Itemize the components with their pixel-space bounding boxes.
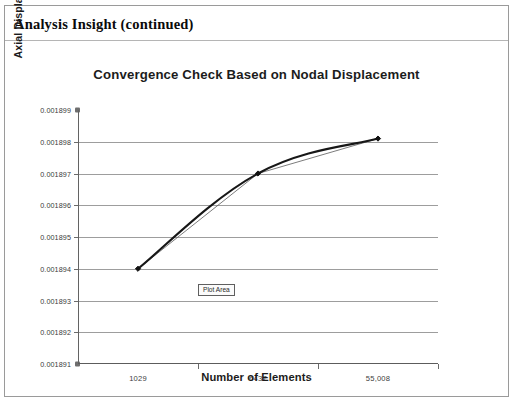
x-axis-tick xyxy=(438,364,439,369)
y-axis-tick-label: 0.001897 xyxy=(40,169,71,178)
y-axis-tick-label: 0.001894 xyxy=(40,264,71,273)
page-title: Analysis Insight (continued) xyxy=(14,16,194,33)
y-axis-tick-label: 0.001891 xyxy=(40,360,71,369)
y-axis-tick-label: 0.001896 xyxy=(40,201,71,210)
x-axis-tick xyxy=(318,364,319,369)
x-axis-title: Number of Elements xyxy=(5,371,508,383)
y-axis-tick-label: 0.001893 xyxy=(40,296,71,305)
y-axis-tick-label: 0.001895 xyxy=(40,233,71,242)
data-series-line xyxy=(78,110,438,364)
document-page: Analysis Insight (continued) Convergence… xyxy=(0,0,514,401)
plot-area-tooltip: Plot Area xyxy=(198,284,235,296)
chart-convergence-check: Convergence Check Based on Nodal Displac… xyxy=(5,41,508,396)
chart-title: Convergence Check Based on Nodal Displac… xyxy=(5,67,508,82)
x-axis-tick xyxy=(198,364,199,369)
y-axis-tick-label: 0.001892 xyxy=(40,328,71,337)
plot-area: 0.0018990.0018980.0018970.0018960.001895… xyxy=(78,110,438,364)
data-point-marker xyxy=(375,136,380,141)
y-axis-title: Axial Displacement (In) xyxy=(12,0,28,126)
y-axis-tick-label: 0.001899 xyxy=(40,106,71,115)
y-axis-tick-label: 0.001898 xyxy=(40,137,71,146)
